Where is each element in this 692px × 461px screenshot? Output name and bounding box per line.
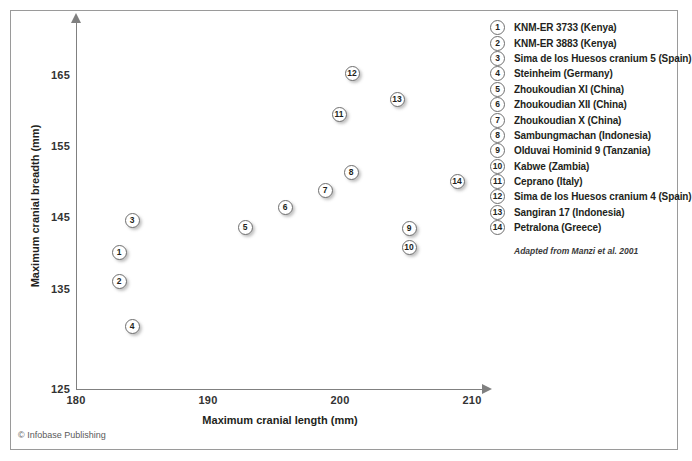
legend-item-11: 11Ceprano (Italy) [490, 174, 680, 189]
legend-item-4: 4Steinheim (Germany) [490, 66, 680, 81]
legend-key-4: 4 [490, 66, 505, 81]
legend-key-6: 6 [490, 97, 505, 112]
legend-label: Zhoukoudian XII (China) [514, 99, 627, 110]
x-axis-title: Maximum cranial length (mm) [0, 414, 560, 426]
source-note: Adapted from Manzi et al. 2001 [514, 246, 638, 256]
data-point-2: 2 [112, 274, 127, 289]
data-point-14: 14 [450, 174, 465, 189]
legend-label: Sima de los Huesos cranium 5 (Spain) [514, 53, 692, 64]
data-point-13: 13 [390, 92, 405, 107]
legend-key-2: 2 [490, 36, 505, 51]
legend-key-10: 10 [490, 159, 505, 174]
legend-item-7: 7Zhoukoudian X (China) [490, 112, 680, 127]
x-axis-line [76, 389, 484, 390]
x-tick-label: 210 [452, 394, 492, 406]
legend-key-1: 1 [490, 20, 505, 35]
legend-item-10: 10Kabwe (Zambia) [490, 159, 680, 174]
y-axis-line [76, 22, 77, 390]
legend-label: Zhoukoudian XI (China) [514, 84, 624, 95]
legend-label: Petralona (Greece) [514, 222, 601, 233]
legend-key-8: 8 [490, 128, 505, 143]
legend-item-5: 5Zhoukoudian XI (China) [490, 82, 680, 97]
data-point-3: 3 [125, 213, 140, 228]
data-point-12: 12 [345, 66, 360, 81]
data-point-7: 7 [318, 183, 333, 198]
data-point-6: 6 [278, 200, 293, 215]
legend-key-9: 9 [490, 143, 505, 158]
y-tick-label: 165 [36, 69, 70, 81]
x-axis-arrow-icon [482, 384, 492, 394]
x-tick-label: 180 [56, 394, 96, 406]
legend-key-13: 13 [490, 205, 505, 220]
legend-label: Kabwe (Zambia) [514, 161, 589, 172]
legend-item-9: 9Olduvai Hominid 9 (Tanzania) [490, 143, 680, 158]
legend-key-14: 14 [490, 220, 505, 235]
data-point-4: 4 [125, 319, 140, 334]
x-tick-label: 200 [320, 394, 360, 406]
y-tick-label: 155 [36, 140, 70, 152]
legend-label: Olduvai Hominid 9 (Tanzania) [514, 145, 650, 156]
copyright-notice: © Infobase Publishing [18, 430, 106, 440]
legend-item-12: 12Sima de los Huesos cranium 4 (Spain) [490, 189, 680, 204]
legend-label: Steinheim (Germany) [514, 68, 613, 79]
data-point-8: 8 [344, 165, 359, 180]
legend-label: Sangiran 17 (Indonesia) [514, 207, 625, 218]
legend-key-7: 7 [490, 113, 505, 128]
legend-item-6: 6Zhoukoudian XII (China) [490, 97, 680, 112]
data-point-5: 5 [238, 220, 253, 235]
legend-key-11: 11 [490, 174, 505, 189]
legend-key-3: 3 [490, 51, 505, 66]
data-point-11: 11 [332, 107, 347, 122]
legend-label: KNM-ER 3733 (Kenya) [514, 22, 617, 33]
legend-item-3: 3Sima de los Huesos cranium 5 (Spain) [490, 51, 680, 66]
data-point-1: 1 [112, 245, 127, 260]
data-point-10: 10 [402, 240, 417, 255]
legend-item-13: 13Sangiran 17 (Indonesia) [490, 205, 680, 220]
legend-label: Sambungmachan (Indonesia) [514, 130, 651, 141]
legend-item-14: 14Petralona (Greece) [490, 220, 680, 235]
legend-label: KNM-ER 3883 (Kenya) [514, 38, 617, 49]
legend-key-12: 12 [490, 189, 505, 204]
legend-label: Zhoukoudian X (China) [514, 115, 621, 126]
legend-item-2: 2KNM-ER 3883 (Kenya) [490, 35, 680, 50]
data-point-9: 9 [402, 221, 417, 236]
y-axis-title: Maximum cranial breadth (mm) [29, 76, 41, 336]
legend-item-1: 1KNM-ER 3733 (Kenya) [490, 20, 680, 35]
legend: 1KNM-ER 3733 (Kenya)2KNM-ER 3883 (Kenya)… [490, 20, 680, 235]
legend-label: Sima de los Huesos cranium 4 (Spain) [514, 191, 692, 202]
legend-key-5: 5 [490, 82, 505, 97]
y-axis-arrow-icon [71, 13, 81, 23]
legend-label: Ceprano (Italy) [514, 176, 583, 187]
y-tick-label: 145 [36, 211, 70, 223]
y-tick-label: 135 [36, 283, 70, 295]
legend-item-8: 8Sambungmachan (Indonesia) [490, 128, 680, 143]
x-tick-label: 190 [188, 394, 228, 406]
